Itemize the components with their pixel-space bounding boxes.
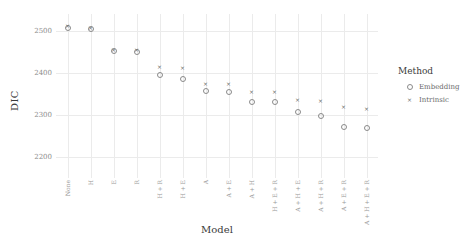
legend-item[interactable]: Embedding — [398, 81, 470, 92]
x-axis-tick-label: A + E + R — [339, 180, 349, 226]
grid-line-vertical — [183, 14, 184, 178]
x-axis-title: Model — [56, 224, 378, 235]
y-axis-title: DIC — [6, 78, 22, 122]
grid-line-vertical — [91, 14, 92, 178]
legend-item-label: Intrinsic — [419, 96, 449, 104]
data-point: × — [317, 97, 324, 104]
circle-open-icon — [407, 84, 413, 90]
legend: Method Embedding×Intrinsic — [398, 66, 470, 107]
data-point: × — [225, 80, 232, 87]
x-axis-tick-label: A + H + E + R — [362, 180, 372, 226]
data-point: × — [64, 22, 71, 29]
grid-line-vertical — [252, 14, 253, 178]
data-point: × — [179, 64, 186, 71]
x-axis-tick-label: H + E — [178, 180, 188, 226]
data-point — [203, 88, 209, 94]
y-axis-tick-labels: 2500240023002200 — [22, 0, 52, 244]
data-point — [364, 125, 370, 131]
data-point: × — [133, 46, 140, 53]
x-axis-tick-label: H + E + R — [270, 180, 280, 226]
legend-item-label: Embedding — [419, 83, 460, 91]
chart-root: DIC 2500240023002200 ×××××××××××××× None… — [0, 0, 473, 244]
data-point: × — [340, 103, 347, 110]
grid-line-vertical — [114, 14, 115, 178]
x-axis-tick-labels: NoneHERH + RH + EAA + EA + HH + E + RA +… — [56, 178, 378, 224]
data-point: × — [248, 88, 255, 95]
x-axis-tick-label: A + E — [224, 180, 234, 226]
legend-key-intrinsic: × — [404, 94, 415, 105]
x-axis-tick: H + E + R — [270, 180, 280, 226]
x-axis-tick-label: E — [109, 180, 119, 226]
grid-line-horizontal — [56, 115, 378, 116]
data-point: × — [202, 80, 209, 87]
x-axis-tick: A + E — [224, 180, 234, 226]
x-axis-tick: A + H + E + R — [362, 180, 372, 226]
x-axis-tick-label: None — [63, 180, 73, 226]
x-axis-tick: R — [132, 180, 142, 226]
x-axis-tick-label: A + H — [247, 180, 257, 226]
legend-item[interactable]: ×Intrinsic — [398, 94, 470, 105]
x-axis-tick-label: A — [201, 180, 211, 226]
data-point: × — [363, 105, 370, 112]
data-point — [249, 99, 255, 105]
legend-entries: Embedding×Intrinsic — [398, 81, 470, 105]
grid-line-vertical — [229, 14, 230, 178]
x-axis-tick-label: A + H + E — [293, 180, 303, 226]
x-axis-tick: H + E — [178, 180, 188, 226]
data-point — [180, 76, 186, 82]
data-point: × — [156, 63, 163, 70]
legend-key-embedding — [404, 81, 415, 92]
grid-line-horizontal — [56, 31, 378, 32]
y-axis-tick-label: 2200 — [22, 153, 52, 161]
data-point — [318, 113, 324, 119]
grid-line-vertical — [367, 14, 368, 178]
grid-line-vertical — [137, 14, 138, 178]
grid-line-vertical — [275, 14, 276, 178]
data-point — [295, 109, 301, 115]
grid-line-horizontal — [56, 73, 378, 74]
x-axis-tick: A — [201, 180, 211, 226]
x-axis-tick: H — [86, 180, 96, 226]
data-point: × — [110, 46, 117, 53]
x-axis-tick: A + E + R — [339, 180, 349, 226]
x-axis-tick: None — [63, 180, 73, 226]
cross-icon: × — [407, 97, 412, 103]
data-point — [341, 124, 347, 130]
x-axis-tick: H + R — [155, 180, 165, 226]
grid-line-vertical — [321, 14, 322, 178]
x-axis-tick-label: H + R — [155, 180, 165, 226]
x-axis-tick: A + H + E — [293, 180, 303, 226]
grid-line-horizontal — [56, 157, 378, 158]
y-axis-tick-label: 2300 — [22, 111, 52, 119]
grid-line-vertical — [344, 14, 345, 178]
data-point — [272, 99, 278, 105]
x-axis-tick-label: A + H + R — [316, 180, 326, 226]
x-axis-tick-label: R — [132, 180, 142, 226]
x-axis-tick-label: H — [86, 180, 96, 226]
grid-line-vertical — [160, 14, 161, 178]
grid-line-vertical — [206, 14, 207, 178]
data-point — [226, 89, 232, 95]
x-axis-tick: E — [109, 180, 119, 226]
x-axis-tick: A + H — [247, 180, 257, 226]
y-axis-tick-label: 2500 — [22, 27, 52, 35]
plot-panel: ×××××××××××××× — [56, 14, 378, 178]
legend-title: Method — [398, 66, 470, 76]
data-point: × — [271, 88, 278, 95]
data-point — [157, 72, 163, 78]
x-axis-tick: A + H + R — [316, 180, 326, 226]
grid-line-vertical — [68, 14, 69, 178]
data-point: × — [87, 24, 94, 31]
data-point: × — [294, 96, 301, 103]
y-axis-tick-label: 2400 — [22, 69, 52, 77]
